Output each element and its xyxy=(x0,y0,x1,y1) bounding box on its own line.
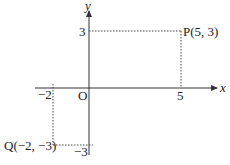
x-axis-label: x xyxy=(219,80,226,95)
diagram-svg: y x O 3 −3 5 −2 P(5, 3) Q(−2, −3) xyxy=(0,0,230,165)
origin-label: O xyxy=(78,88,87,103)
point-q-label: Q(−2, −3) xyxy=(4,138,56,153)
tick-label-x-5: 5 xyxy=(177,88,184,103)
coordinate-diagram: y x O 3 −3 5 −2 P(5, 3) Q(−2, −3) xyxy=(0,0,230,165)
y-axis-label: y xyxy=(83,0,91,13)
tick-label-y-3: 3 xyxy=(79,24,86,39)
point-p-label: P(5, 3) xyxy=(183,24,218,39)
tick-label-y-neg3: −3 xyxy=(74,144,88,159)
tick-label-x-neg2: −2 xyxy=(38,87,52,102)
